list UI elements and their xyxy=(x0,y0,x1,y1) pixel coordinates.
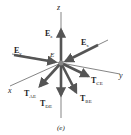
labels: z x y E Ez Ex Ey TCE TAE TDE TBE (e) xyxy=(7,3,123,132)
caption: (e) xyxy=(57,124,65,132)
z-axis-label: z xyxy=(56,3,61,12)
ey-label: Ey xyxy=(14,46,22,56)
ex-arrow xyxy=(66,45,98,61)
tde-label: TDE xyxy=(40,99,52,109)
tce-label: TCE xyxy=(91,76,103,86)
ex-label: Ex xyxy=(81,38,89,48)
point-e-label: E xyxy=(49,51,55,59)
tbe-label: TBE xyxy=(80,94,92,104)
x-axis-label: x xyxy=(7,86,12,95)
ez-label: Ez xyxy=(45,29,53,39)
y-axis-label: y xyxy=(118,71,123,80)
point-e-dot xyxy=(59,61,64,66)
ey-arrow xyxy=(14,55,55,62)
tae-label: TAE xyxy=(24,89,36,99)
free-body-diagram: z x y E Ez Ex Ey TCE TAE TDE TBE (e) xyxy=(0,0,131,135)
tae-arrow xyxy=(40,63,61,86)
x-axis xyxy=(10,63,61,86)
